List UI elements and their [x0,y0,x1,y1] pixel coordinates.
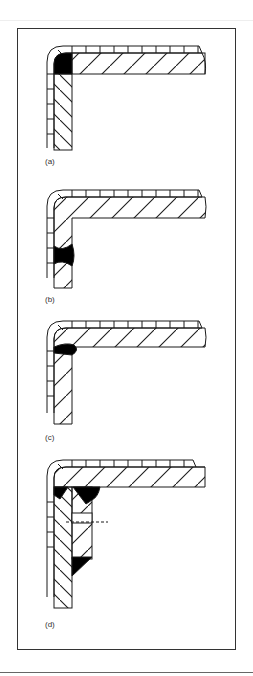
clad-plate-joint-diagram [0,0,253,676]
panel-d [47,460,205,608]
panel-label-a: (a) [45,157,55,166]
panel-label-d: (d) [45,620,55,629]
panel-label-c: (c) [45,433,54,442]
panel-label-b: (b) [45,295,55,304]
cladding-ticks-left [47,74,54,134]
bottom-rule [0,672,253,673]
panel-a [47,46,206,150]
panel-b [47,190,206,288]
panel-c [47,321,206,424]
